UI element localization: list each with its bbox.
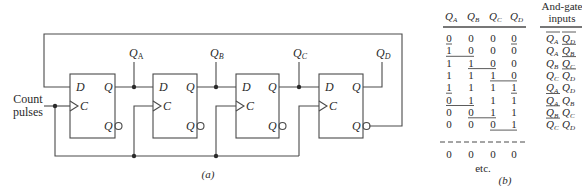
table-cell: 0: [468, 32, 474, 44]
svg-text:And-gate: And-gate: [542, 0, 582, 12]
johnson-counter-diagram: Count pulses D C Q Q D C Q Q D C Q Q D C…: [0, 0, 582, 186]
state-table-header: QA QB QC QD: [445, 10, 523, 24]
gate-input-term: QC: [546, 118, 559, 132]
svg-text:QA: QA: [129, 46, 144, 61]
caption-a: (a): [202, 168, 215, 181]
svg-text:D: D: [324, 80, 334, 94]
table-cell: 1: [446, 57, 452, 69]
table-cell: 1: [446, 69, 452, 81]
gate-input-term: QD: [562, 118, 575, 132]
svg-text:QA: QA: [445, 10, 458, 24]
svg-text:C: C: [163, 99, 172, 113]
table-cell: 0: [490, 57, 496, 69]
table-cell: 0: [446, 32, 452, 44]
table-cell: 0: [511, 57, 517, 69]
table-cell: 0: [490, 118, 496, 130]
table-cell: 0: [446, 94, 452, 106]
svg-text:C: C: [246, 99, 255, 113]
svg-text:QC: QC: [489, 10, 502, 24]
svg-text:QC: QC: [293, 46, 308, 61]
svg-text:C: C: [80, 99, 89, 113]
table-cell: 1: [511, 118, 517, 130]
table-cell: 0: [511, 44, 517, 56]
svg-text:QD: QD: [510, 10, 523, 24]
input-label: Count: [13, 92, 43, 106]
svg-text:0: 0: [490, 148, 496, 160]
svg-text:Q: Q: [104, 119, 113, 133]
svg-text:0: 0: [446, 148, 452, 160]
table-cell: 1: [446, 81, 452, 93]
svg-text:QB: QB: [210, 46, 224, 61]
svg-text:Q: Q: [186, 80, 195, 94]
svg-text:Q: Q: [186, 119, 195, 133]
table-cell: 1: [490, 94, 496, 106]
svg-text:0: 0: [511, 148, 517, 160]
table-cell: 0: [446, 118, 452, 130]
table-cell: 1: [468, 94, 474, 106]
table-cell: 0: [468, 44, 474, 56]
table-cell: 1: [468, 69, 474, 81]
table-cell: 1: [511, 81, 517, 93]
svg-text:Q: Q: [104, 80, 113, 94]
svg-text:Q: Q: [268, 80, 277, 94]
table-cell: 1: [468, 57, 474, 69]
table-cell: 1: [490, 81, 496, 93]
table-cell: 1: [490, 69, 496, 81]
table-cell: 0: [446, 106, 452, 118]
svg-text:Q: Q: [352, 119, 361, 133]
table-cell: 1: [511, 106, 517, 118]
svg-text:D: D: [75, 80, 85, 94]
table-cell: 0: [511, 32, 517, 44]
table-cell: 1: [511, 94, 517, 106]
table-cell: 1: [446, 44, 452, 56]
table-cell: 0: [490, 44, 496, 56]
table-cell: 0: [468, 118, 474, 130]
table-cell: 1: [490, 106, 496, 118]
svg-text:0: 0: [468, 148, 474, 160]
svg-text:D: D: [241, 80, 251, 94]
svg-text:C: C: [329, 99, 338, 113]
table-cell: 0: [490, 32, 496, 44]
svg-text:QD: QD: [376, 46, 391, 61]
feedback-wire: [44, 34, 402, 126]
svg-text:etc.: etc.: [475, 162, 491, 174]
table-cell: 0: [511, 69, 517, 81]
table-cell: 0: [468, 106, 474, 118]
svg-text:Q: Q: [268, 119, 277, 133]
svg-text:D: D: [158, 80, 168, 94]
caption-b: (b): [499, 174, 512, 186]
svg-text:QB: QB: [467, 10, 480, 24]
gate-inputs-list: QAQDQAQBQBQCQCQDQAQDQAQBQBQCQCQD: [546, 32, 575, 132]
svg-text:inputs: inputs: [549, 12, 576, 24]
svg-text:Q: Q: [352, 80, 361, 94]
svg-text:pulses: pulses: [13, 105, 43, 119]
table-cell: 1: [468, 81, 474, 93]
